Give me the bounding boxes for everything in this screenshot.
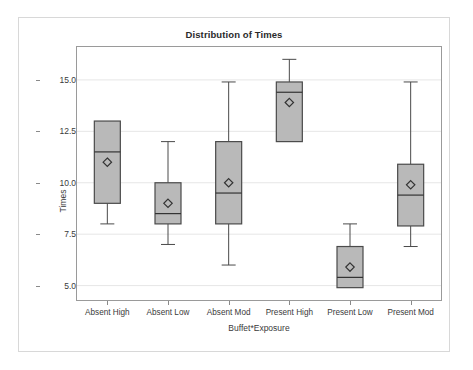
y-axis: Times 5.07.510.012.515.0 xyxy=(36,46,76,301)
x-tick-label: Present Mod xyxy=(387,308,433,317)
x-tick-label: Absent Low xyxy=(147,308,190,317)
box-iqr xyxy=(94,121,120,203)
y-tick-label: 5.0 xyxy=(42,281,76,291)
boxplot-group xyxy=(276,59,302,141)
box-iqr xyxy=(216,142,242,224)
chart-root: Distribution of Times Times 5.07.510.012… xyxy=(0,0,473,370)
y-axis-title: Times xyxy=(58,166,68,236)
boxplot-group xyxy=(398,82,424,247)
y-tick-mark xyxy=(36,80,40,81)
x-tick-label: Absent High xyxy=(85,308,130,317)
y-tick-label: 12.5 xyxy=(42,126,76,136)
x-tick-mark xyxy=(411,301,412,305)
y-tick-mark xyxy=(36,131,40,132)
x-tick-mark xyxy=(168,301,169,305)
y-tick-mark xyxy=(36,183,40,184)
x-tick-label: Present High xyxy=(266,308,313,317)
y-tick-label: 7.5 xyxy=(42,229,76,239)
box-iqr xyxy=(276,82,302,142)
box-iqr xyxy=(337,247,363,288)
x-tick-mark xyxy=(289,301,290,305)
x-tick-mark xyxy=(350,301,351,305)
x-tick-mark xyxy=(107,301,108,305)
y-tick-mark xyxy=(36,286,40,287)
chart-title: Distribution of Times xyxy=(18,29,450,40)
x-axis-title: Buffet*Exposure xyxy=(76,323,442,333)
y-tick-label: 15.0 xyxy=(42,75,76,85)
x-axis: Buffet*Exposure Absent HighAbsent LowAbs… xyxy=(76,301,442,347)
x-tick-mark xyxy=(229,301,230,305)
y-tick-label: 10.0 xyxy=(42,178,76,188)
box-iqr xyxy=(155,183,181,224)
boxplot-svg xyxy=(77,47,441,300)
boxplot-group xyxy=(216,82,242,265)
boxplot-group xyxy=(155,142,181,245)
boxplot-group xyxy=(94,121,120,224)
plot-area xyxy=(76,46,442,301)
boxplot-group xyxy=(337,224,363,288)
x-tick-label: Absent Mod xyxy=(207,308,251,317)
y-tick-mark xyxy=(36,234,40,235)
x-tick-label: Present Low xyxy=(327,308,373,317)
